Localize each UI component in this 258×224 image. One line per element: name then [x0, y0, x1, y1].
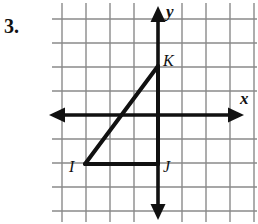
coordinate-plane-graph: y x I J K — [0, 0, 258, 224]
x-axis-label: x — [239, 89, 249, 108]
grid-lines — [52, 3, 257, 222]
figure-container: 3. — [0, 0, 258, 224]
axes — [49, 6, 244, 220]
y-axis-arrow-down — [151, 204, 166, 220]
vertex-label-j: J — [163, 158, 171, 175]
x-axis-arrow-right — [228, 108, 244, 123]
y-axis-label: y — [164, 2, 174, 21]
vertex-label-k: K — [162, 52, 175, 69]
y-axis-arrow-up — [151, 6, 166, 22]
vertex-label-i: I — [68, 158, 75, 175]
x-axis-arrow-left — [49, 108, 65, 123]
